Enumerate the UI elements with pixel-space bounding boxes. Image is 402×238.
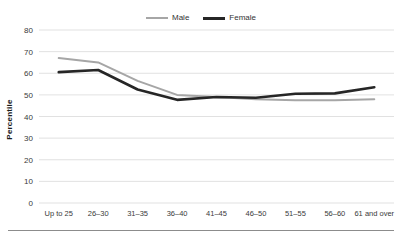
x-tick-label: 31–35 [127,209,148,218]
y-tick-label: 60 [24,69,33,78]
x-tick-label: 61 and over [354,209,394,218]
y-tick-label: 0 [29,199,34,208]
chart-plot-area: 01020304050607080 Up to 2526–3031–3536–4… [0,0,402,238]
x-tick-label: 36–40 [167,209,188,218]
y-tick-label: 30 [24,134,33,143]
data-series-group [59,58,375,100]
y-tick-label: 10 [24,177,33,186]
y-tick-label: 40 [24,113,33,122]
y-tick-label: 50 [24,91,33,100]
y-tick-label: 80 [24,26,33,35]
y-tick-label: 70 [24,48,33,57]
series-line-female [59,70,375,100]
chart-figure: Male Female Percentile 01020304050607080… [0,0,402,238]
x-tick-label: Up to 25 [45,209,73,218]
figure-bottom-rule [8,230,394,231]
x-tick-label: 51–55 [285,209,306,218]
gridlines-group [39,30,394,203]
x-tick-label: 41–45 [206,209,227,218]
x-tick-label: 26–30 [88,209,109,218]
x-tick-labels-group: Up to 2526–3031–3536–4041–4546–5051–5556… [45,209,395,218]
x-tick-label: 56–60 [324,209,345,218]
y-tick-labels-group: 01020304050607080 [24,26,33,208]
y-tick-label: 20 [24,156,33,165]
x-tick-label: 46–50 [246,209,267,218]
